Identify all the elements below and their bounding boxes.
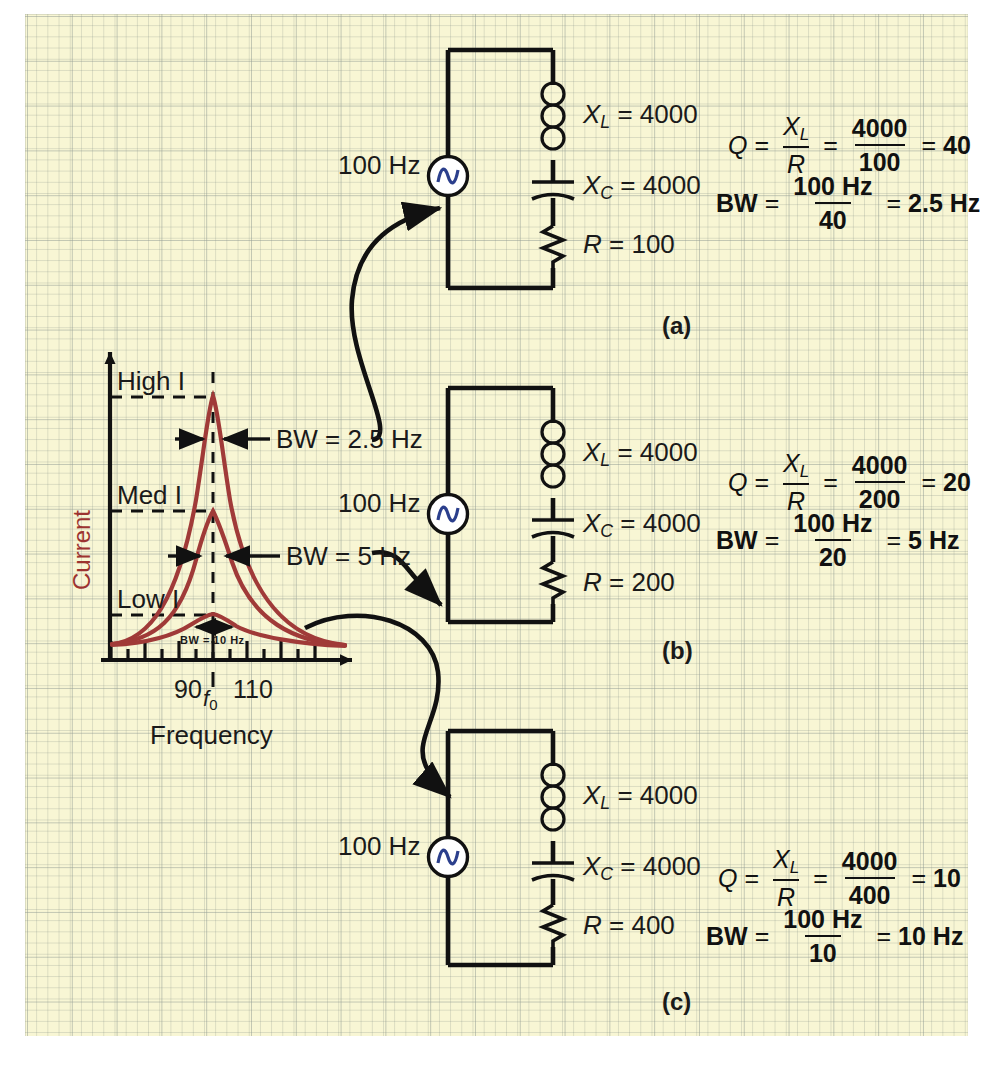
inductor-label-b: XL = 4000 xyxy=(583,439,698,470)
circuit-b-drawing xyxy=(429,388,575,622)
bw-formula-b: BW= 100 Hz20 =5 Hz xyxy=(716,509,960,572)
panel-label-c: (c) xyxy=(662,990,691,1014)
level-label-med: Med I xyxy=(117,482,182,508)
panel-label-a: (a) xyxy=(662,314,691,338)
resistor-label-b: R = 200 xyxy=(583,569,675,595)
inductor-label-c: XL = 4000 xyxy=(583,782,698,813)
resistor-label-a: R = 100 xyxy=(583,231,675,257)
capacitor-label-b: XC = 4000 xyxy=(583,510,701,541)
source-label-a: 100 Hz xyxy=(338,152,420,178)
circuit-c-drawing xyxy=(429,731,575,965)
source-label-b: 100 Hz xyxy=(338,490,420,516)
resistor-label-c: R = 400 xyxy=(583,912,675,938)
source-label-c: 100 Hz xyxy=(338,833,420,859)
resonance-bandwidth-figure: Current High I Med I Low I BW = 2.5 Hz B… xyxy=(0,0,984,1067)
bandwidth-label-low: BW = 10 Hz xyxy=(180,635,245,646)
y-axis-label: Current xyxy=(70,510,94,590)
x-axis-label: Frequency xyxy=(150,722,273,748)
circuit-a-drawing xyxy=(429,50,575,288)
q-formula-a: Q= XLR = 4000100 =40 xyxy=(728,112,971,179)
connector-to-circuit-a xyxy=(352,208,440,440)
q-formula-b: Q= XLR = 4000200 =20 xyxy=(728,449,971,516)
capacitor-label-a: XC = 4000 xyxy=(583,172,701,203)
capacitor-label-c: XC = 4000 xyxy=(583,853,701,884)
level-label-low: Low I xyxy=(117,586,179,612)
bw-formula-a: BW= 100 Hz40 =2.5 Hz xyxy=(716,172,980,235)
x-tick-label-110: 110 xyxy=(233,677,273,702)
panel-label-b: (b) xyxy=(662,639,693,663)
bw-formula-c: BW= 100 Hz10 =10 Hz xyxy=(706,905,963,968)
resonance-frequency-label: f0 xyxy=(203,688,217,713)
bandwidth-label-high: BW = 2.5 Hz xyxy=(276,426,423,452)
q-formula-c: Q= XLR = 4000400 =10 xyxy=(718,845,961,912)
level-label-high: High I xyxy=(117,368,185,394)
inductor-label-a: XL = 4000 xyxy=(583,101,698,132)
bandwidth-label-med: BW = 5 Hz xyxy=(286,543,411,569)
x-tick-label-90: 90 xyxy=(174,677,202,702)
